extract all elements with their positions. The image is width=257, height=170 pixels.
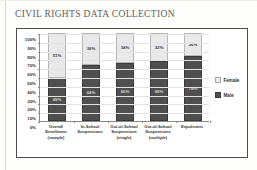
y-axis-tick-mark: [38, 78, 40, 79]
x-axis-category-label: Out-of-SchoolSuspensions(single): [107, 124, 141, 140]
y-axis-tick-mark: [38, 69, 40, 70]
legend-item[interactable]: Male: [215, 92, 249, 98]
legend-label: Male: [224, 93, 234, 98]
bar-segment-male[interactable]: 74%: [184, 56, 202, 121]
y-axis-tick-label: 80%: [27, 54, 36, 59]
bar-value-label: 68%: [155, 89, 164, 94]
y-axis-tick-mark: [38, 122, 40, 123]
gridline: [40, 43, 209, 44]
bar-value-label: 66%: [121, 89, 130, 94]
bar-value-label: 34%: [121, 45, 130, 50]
bar-segment-female[interactable]: 51%: [48, 33, 66, 78]
bar-value-label: 32%: [155, 45, 164, 50]
x-axis-category-label: Expulsions: [175, 124, 209, 129]
plot-area: 49%51%64%36%66%34%68%32%74%26%: [39, 34, 209, 122]
y-axis: 100%90%80%70%60%50%40%30%20%10%0%: [17, 34, 38, 122]
page-title: CIVIL RIGHTS DATA COLLECTION: [15, 9, 175, 19]
y-axis-tick-label: 90%: [27, 45, 36, 50]
y-axis-tick-label: 60%: [27, 72, 36, 77]
x-axis-category-label-line: (single): [107, 135, 141, 140]
x-axis-tick-mark: [210, 121, 211, 123]
y-axis-tick-label: 20%: [27, 107, 36, 112]
y-axis-tick-mark: [38, 113, 40, 114]
y-axis-tick-label: 40%: [27, 89, 36, 94]
y-axis-tick-label: 0%: [30, 125, 36, 130]
chart-legend: FemaleMale: [215, 77, 249, 107]
y-axis-tick-mark: [38, 104, 40, 105]
y-axis-tick-mark: [38, 34, 40, 35]
chart-container: 100%90%80%70%60%50%40%30%20%10%0% 49%51%…: [16, 28, 248, 158]
gridline: [40, 34, 209, 35]
x-axis-category-label: OverallEnrollment(sample): [39, 124, 73, 140]
x-axis-tick-mark: [142, 121, 143, 123]
y-axis-tick-label: 10%: [27, 116, 36, 121]
gridline: [40, 78, 209, 79]
page-top-edge-rule: [0, 0, 257, 1]
legend-swatch-icon: [215, 92, 221, 98]
bar-segment-male[interactable]: 49%: [48, 78, 66, 121]
y-axis-tick-label: 30%: [27, 98, 36, 103]
x-axis-category-label-line: Suspensions: [73, 129, 107, 134]
gridline: [40, 69, 209, 70]
gridline: [40, 104, 209, 105]
bar-value-label: 36%: [87, 46, 96, 51]
y-axis-tick-mark: [38, 87, 40, 88]
legend-swatch-icon: [215, 77, 221, 83]
chart-inner: 100%90%80%70%60%50%40%30%20%10%0% 49%51%…: [17, 29, 247, 157]
x-axis-category-label-line: (sample): [39, 135, 73, 140]
y-axis-tick-label: 50%: [27, 81, 36, 86]
bar-value-label: 51%: [53, 53, 62, 58]
y-axis-tick-mark: [38, 60, 40, 61]
x-axis-tick-mark: [108, 121, 109, 123]
gridline: [40, 52, 209, 53]
y-axis-tick-label: 100%: [25, 37, 36, 42]
y-axis-tick-label: 70%: [27, 63, 36, 68]
legend-label: Female: [224, 78, 240, 83]
gridline: [40, 87, 209, 88]
gridline: [40, 60, 209, 61]
legend-item[interactable]: Female: [215, 77, 249, 83]
bar-segment-female[interactable]: 34%: [116, 33, 134, 63]
gridline: [40, 113, 209, 114]
x-axis-category-label-line: Expulsions: [175, 124, 209, 129]
x-axis-category-label: In-SchoolSuspensions: [73, 124, 107, 135]
bar-segment-female[interactable]: 32%: [150, 33, 168, 61]
bar-value-label: 64%: [87, 90, 96, 95]
x-axis: OverallEnrollment(sample)In-SchoolSuspen…: [39, 124, 209, 156]
y-axis-tick-mark: [38, 52, 40, 53]
y-axis-tick-mark: [38, 43, 40, 44]
x-axis-category-label: Out-of-SchoolSuspensions(multiple): [141, 124, 175, 140]
bar-value-label: 49%: [53, 97, 62, 102]
gridline: [40, 96, 209, 97]
x-axis-category-label-line: (multiple): [141, 135, 175, 140]
x-axis-tick-mark: [74, 121, 75, 123]
x-axis-tick-mark: [176, 121, 177, 123]
page-left-margin-rule: [5, 0, 6, 170]
y-axis-tick-mark: [38, 96, 40, 97]
